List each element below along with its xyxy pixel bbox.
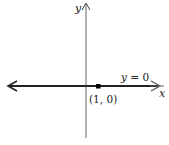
x-axis-label: x bbox=[159, 87, 166, 100]
coordinate-plane: y x y = 0 (1, 0) bbox=[0, 0, 169, 145]
point-label: (1, 0) bbox=[89, 93, 117, 105]
y-axis bbox=[82, 3, 90, 138]
y-axis-label: y bbox=[74, 2, 82, 15]
point-1-0 bbox=[96, 84, 101, 89]
line-equation-rest: = 0 bbox=[127, 71, 149, 83]
line-equation-label: y = 0 bbox=[120, 71, 149, 83]
